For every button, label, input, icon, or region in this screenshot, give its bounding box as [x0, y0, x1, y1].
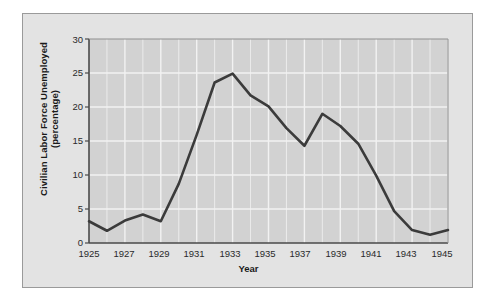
- plot-svg: [23, 14, 474, 289]
- figure-panel: Civilian Labor Force Unemployed (percent…: [22, 13, 473, 288]
- unemployment-line-chart: Civilian Labor Force Unemployed (percent…: [23, 14, 474, 289]
